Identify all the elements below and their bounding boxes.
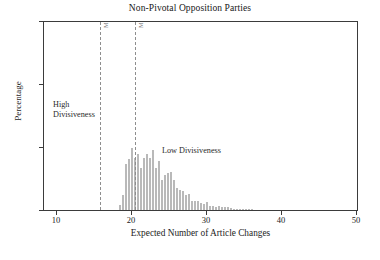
chart-title: Non-Pivotal Opposition Parties	[0, 3, 380, 13]
median-line-low	[135, 22, 136, 210]
high-divisiveness-annotation: High Divisiveness	[53, 100, 95, 120]
median-line-high	[100, 22, 101, 210]
x-axis-label: Expected Number of Article Changes	[43, 228, 358, 238]
y-axis-label: Percentage	[13, 61, 23, 141]
high-divisiveness-line1: High	[53, 100, 95, 110]
x-tick-label-20: 20	[116, 215, 146, 225]
x-tick-label-30: 30	[191, 215, 221, 225]
chart-figure: Non-Pivotal Opposition Parties 15 10 5 0…	[0, 0, 380, 260]
x-tick-label-10: 10	[41, 215, 71, 225]
x-tick-label-40: 40	[266, 215, 296, 225]
high-divisiveness-line2: Divisiveness	[53, 110, 95, 120]
x-tick-label-50: 50	[341, 215, 371, 225]
low-divisiveness-annotation: Low Divisiveness	[162, 146, 221, 156]
histogram-bar	[251, 209, 253, 210]
median-label-high: Median	[102, 21, 109, 28]
median-label-low: Median	[137, 21, 144, 28]
plot-area: Median Median High Divisiveness Low Divi…	[43, 21, 358, 211]
